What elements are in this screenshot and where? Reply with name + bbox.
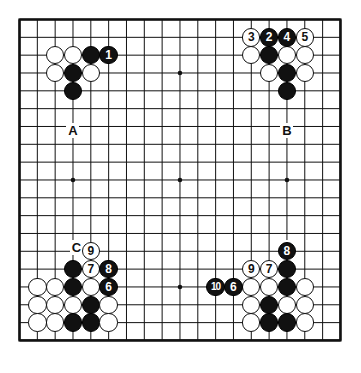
star-point [285, 178, 290, 183]
stone-white [99, 313, 117, 331]
stone-black [64, 82, 82, 100]
move-number: 6 [100, 279, 116, 295]
move-number: 2 [261, 29, 277, 45]
stone-black-move-6: 6 [99, 278, 117, 296]
stone-white [99, 296, 117, 314]
move-number: 6 [225, 279, 241, 295]
stone-black [278, 313, 296, 331]
board-label-a: A [66, 123, 79, 138]
star-point [178, 285, 183, 290]
stone-black [260, 313, 278, 331]
stone-white-move-3: 3 [242, 28, 260, 46]
stone-white [296, 278, 314, 296]
star-point [178, 71, 183, 76]
stone-white [296, 64, 314, 82]
stone-white-move-7: 7 [260, 260, 278, 278]
move-number: 7 [83, 261, 99, 277]
stone-white [64, 296, 82, 314]
stone-white [82, 278, 100, 296]
move-number: 4 [279, 29, 295, 45]
stone-black [82, 313, 100, 331]
stone-white [28, 296, 46, 314]
stone-white-move-9: 9 [242, 260, 260, 278]
stone-white [278, 296, 296, 314]
stone-black-move-8: 8 [278, 242, 296, 260]
move-number: 8 [100, 261, 116, 277]
move-number: 9 [83, 243, 99, 259]
star-point [71, 178, 76, 183]
move-number: 10 [207, 279, 223, 295]
move-number: 3 [243, 29, 259, 45]
stone-white-move-7: 7 [82, 260, 100, 278]
stone-white [82, 64, 100, 82]
stone-black-move-1: 1 [99, 46, 117, 64]
go-diagram: 132459786897106 ABCD [0, 0, 361, 373]
stone-black-move-4: 4 [278, 28, 296, 46]
stone-black [278, 82, 296, 100]
stone-black [64, 313, 82, 331]
stone-white [296, 296, 314, 314]
stone-black [82, 296, 100, 314]
board-label-c: C [70, 240, 83, 255]
stone-white [28, 278, 46, 296]
move-number: 5 [297, 29, 313, 45]
stone-white [28, 313, 46, 331]
stone-black-move-10: 10 [206, 278, 224, 296]
move-number: 1 [100, 47, 116, 63]
move-number: 7 [261, 261, 277, 277]
stone-white [46, 313, 64, 331]
stone-white-move-5: 5 [296, 28, 314, 46]
stone-white [296, 313, 314, 331]
move-number: 9 [243, 261, 259, 277]
stone-black-move-2: 2 [260, 28, 278, 46]
star-point [178, 178, 183, 183]
stone-black-move-6: 6 [224, 278, 242, 296]
stone-white-move-9: 9 [82, 242, 100, 260]
board-label-b: B [280, 123, 293, 138]
move-number: 8 [279, 243, 295, 259]
stone-black-move-8: 8 [99, 260, 117, 278]
